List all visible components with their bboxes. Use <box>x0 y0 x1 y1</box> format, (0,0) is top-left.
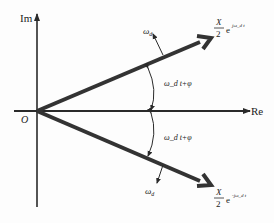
upper-angle-label: ω_d t+φ <box>164 79 192 88</box>
imaginary-axis-label: Im <box>20 12 33 24</box>
lower-angle-arc <box>148 113 154 156</box>
lower-phasor-magnitude-label: X 2 e -jω_d t <box>214 187 247 209</box>
svg-text:2: 2 <box>216 199 221 209</box>
diagram-canvas: Im Re O ωd ω_d t+φ X 2 e jω_d t ωd ω_d t… <box>0 0 274 223</box>
upper-phasor-arrow <box>37 42 200 111</box>
real-axis-label: Re <box>251 105 263 117</box>
lower-rotation-arrow <box>157 165 163 183</box>
svg-text:X: X <box>215 187 222 197</box>
upper-angle-arc <box>148 68 154 110</box>
upper-rotation-label: ωd <box>143 26 153 37</box>
svg-text:e: e <box>226 25 230 35</box>
svg-text:-jω_d t: -jω_d t <box>232 193 247 198</box>
lower-angle-label: ω_d t+φ <box>164 133 192 142</box>
lower-phasor-arrow <box>37 111 200 181</box>
upper-phasor-magnitude-label: X 2 e jω_d t <box>214 17 245 39</box>
svg-text:e: e <box>226 195 230 205</box>
origin-label: O <box>21 114 28 125</box>
svg-text:ωd: ωd <box>145 186 155 197</box>
phasor-diagram: Im Re O ωd ω_d t+φ X 2 e jω_d t ωd ω_d t… <box>0 0 274 223</box>
lower-rotation-label: ωd <box>145 186 155 197</box>
svg-text:X: X <box>215 17 222 27</box>
svg-text:ωd: ωd <box>143 26 153 37</box>
upper-rotation-arrow <box>153 34 163 55</box>
svg-text:2: 2 <box>216 29 221 39</box>
svg-text:jω_d t: jω_d t <box>231 23 245 28</box>
